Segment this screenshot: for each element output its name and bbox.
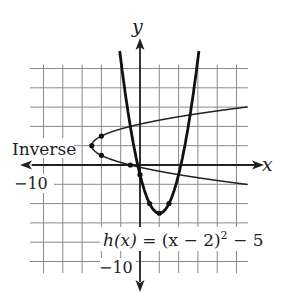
y-axis-label: y bbox=[131, 15, 143, 37]
equation-tail: − 5 bbox=[228, 230, 264, 250]
equation-func: h(x) bbox=[103, 230, 137, 250]
x-axis-label: x bbox=[262, 153, 273, 175]
graph: Inverse −10 −10 x y h(x) = (x − 2)2 − 5 bbox=[0, 0, 299, 308]
inverse-label: Inverse bbox=[12, 139, 76, 159]
equation-body: = (x − 2) bbox=[137, 230, 221, 250]
equation-exponent: 2 bbox=[221, 229, 228, 242]
equation-label: h(x) = (x − 2)2 − 5 bbox=[103, 229, 263, 250]
y-tick-label: −10 bbox=[99, 258, 133, 277]
x-tick-label: −10 bbox=[14, 174, 48, 193]
